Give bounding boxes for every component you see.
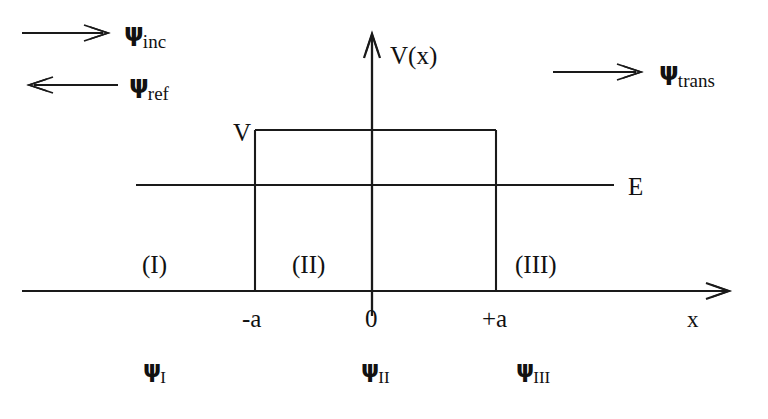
incident-arrow (22, 25, 108, 41)
figure-canvas: ψinc ψref ψtrans V(x) x V E (I) (II) (II… (0, 0, 768, 419)
psi-subscript: ref (148, 83, 169, 104)
transmitted-arrow (553, 64, 641, 80)
barrier-height-label: V (233, 120, 251, 145)
tick-label-minus-a: -a (242, 306, 261, 331)
v-axis-label: V(x) (390, 43, 437, 68)
psi-glyph: ψ (124, 18, 144, 47)
psi-glyph: ψ (143, 356, 161, 382)
transmitted-wave-label: ψtrans (659, 59, 716, 84)
incident-wave-label: ψinc (124, 20, 167, 45)
reflected-arrow (29, 77, 118, 93)
x-axis (22, 283, 729, 299)
psi-glyph: ψ (361, 356, 379, 382)
region-two-label: (II) (292, 252, 325, 277)
psi-glyph: ψ (659, 57, 679, 86)
psi-subscript: III (533, 368, 550, 387)
psi-subscript: inc (143, 31, 166, 52)
region-three-label: (III) (515, 252, 557, 277)
psi-glyph: ψ (129, 70, 149, 99)
x-axis-label: x (687, 308, 699, 331)
energy-level-label: E (628, 174, 643, 199)
psi-glyph: ψ (516, 356, 534, 382)
psi-subscript: trans (678, 70, 715, 91)
v-axis (364, 34, 380, 316)
tick-label-plus-a: +a (482, 306, 507, 331)
diagram-artwork (0, 0, 768, 419)
psi-subscript: II (378, 368, 389, 387)
tick-label-origin: 0 (365, 306, 378, 331)
psi-subscript: I (160, 368, 166, 387)
region-one-label: (I) (142, 252, 167, 277)
wavefunction-region-one: ψI (143, 358, 167, 381)
wavefunction-region-three: ψIII (516, 358, 551, 381)
reflected-wave-label: ψref (129, 72, 170, 97)
wavefunction-region-two: ψII (361, 358, 391, 381)
